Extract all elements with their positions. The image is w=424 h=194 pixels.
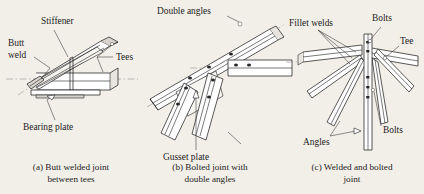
figure-canvas: Stiffener Butt weld Tees Bearing plate [0,0,424,194]
label-tees: Tees [116,52,133,62]
caption-a-line2: between tees [47,174,95,184]
label-stiffener: Stiffener [41,16,75,26]
label-double-angles: Double angles [157,6,211,16]
horizontal-member [228,60,292,76]
angles-leader-2 [330,131,356,136]
label-bolts-top: Bolts [372,13,392,23]
tee-leader-dot [383,56,386,59]
label-butt-weld-line1: Butt [8,38,25,48]
label-tee: Tee [400,36,413,46]
caption-c-line1: (c) Welded and bolted [312,162,393,172]
label-bearing-plate: Bearing plate [23,122,73,132]
angles-arrow [354,128,361,134]
label-gusset-plate: Gusset plate [163,152,209,162]
bolts-top-leader-dot [368,39,371,42]
caption-b-line1: (b) Bolted joint with [172,162,248,172]
bolts-bottom-leader-dot [371,88,374,91]
double-angles-leader [227,16,239,22]
caption-b-line2: double angles [185,174,236,184]
panel-a-drawing [6,30,138,120]
tees-leader-dot [110,42,113,45]
caption-c-line2: joint [343,174,361,184]
tees-leader-lower [97,57,103,72]
stiffener-leader [54,30,68,57]
label-fillet-welds: Fillet welds [289,18,333,28]
caption-a-line1: (a) Butt welded joint [33,162,110,172]
double-angles-leader-dot [238,22,242,26]
bolts-top-leader [370,27,381,40]
gusset-plate-leader-right [228,132,241,144]
bearing-plate-leader [47,96,55,120]
bearing-plate-part [31,90,100,98]
label-butt-weld-line2: weld [8,50,27,60]
central-gusset [364,34,372,150]
label-bolts-bottom: Bolts [383,125,403,135]
steel-joint-figure: Stiffener Butt weld Tees Bearing plate [0,0,424,194]
label-angles: Angles [303,137,330,147]
panel-b-drawing [147,16,292,150]
